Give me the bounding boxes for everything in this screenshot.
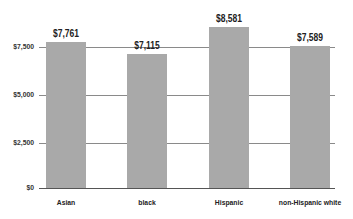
category-label-black: black	[109, 198, 186, 208]
category-label-hispanic: Hispanic	[191, 198, 268, 208]
category-label-asian: Asian	[28, 198, 105, 208]
value-label-black: $7,115	[122, 40, 173, 52]
ytick-5000: $5,000	[5, 90, 34, 100]
value-label-asian: $7,761	[41, 28, 92, 40]
value-label-hispanic: $8,581	[204, 13, 255, 25]
bar-non-hispanic-white	[290, 46, 330, 188]
bar-hispanic	[209, 27, 249, 188]
category-label-non-hispanic-white: non-Hispanic white	[272, 198, 349, 208]
ytick-2500: $2,500	[5, 138, 34, 148]
value-label-non-hispanic-white: $7,589	[285, 32, 336, 44]
bar-chart: $7,500 $5,000 $2,500 $0 $7,761 $7,115 $8…	[0, 0, 353, 219]
ytick-0: $0	[5, 183, 34, 193]
bar-asian	[46, 42, 86, 188]
bar-black	[127, 54, 167, 188]
x-axis-line	[39, 188, 335, 189]
ytick-7500: $7,500	[5, 42, 34, 52]
